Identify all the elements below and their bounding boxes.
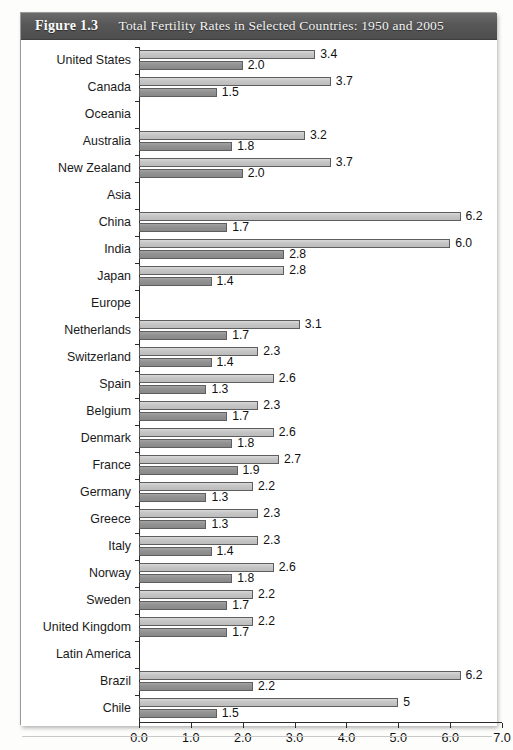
x-axis-tick <box>398 723 399 728</box>
category-label: Chile <box>21 702 139 714</box>
bar-value-label: 2.8 <box>289 248 306 260</box>
bar-value-label: 2.2 <box>258 480 275 492</box>
bar-value-label: 3.4 <box>320 48 337 60</box>
category-label: Europe <box>21 297 139 309</box>
bar-pair: 2.21.7 <box>139 614 497 641</box>
chart-data-row: Brazil6.22.2 <box>21 668 497 695</box>
category-label: Australia <box>21 135 139 147</box>
category-label: Asia <box>21 189 139 201</box>
bar-value-label: 1.8 <box>237 437 254 449</box>
bar-new <box>139 223 227 232</box>
category-label: Switzerland <box>21 351 139 363</box>
category-tick <box>135 290 139 291</box>
bar-pair <box>139 101 497 128</box>
category-label: Germany <box>21 486 139 498</box>
category-label: Italy <box>21 540 139 552</box>
bar-pair: 3.71.5 <box>139 74 497 101</box>
bar-old <box>139 509 258 518</box>
bar-old <box>139 320 300 329</box>
page-rule <box>22 736 492 737</box>
x-axis-tick-label: 7.0 <box>493 731 511 745</box>
category-tick <box>135 344 139 345</box>
category-label: United States <box>21 54 139 66</box>
category-label: France <box>21 459 139 471</box>
bar-new <box>139 547 212 556</box>
bar-new <box>139 88 217 97</box>
bar-value-label: 1.8 <box>237 140 254 152</box>
x-axis-tick-label: 3.0 <box>286 731 304 745</box>
chart-data-row: New Zealand3.72.0 <box>21 155 497 182</box>
category-tick <box>135 263 139 264</box>
bar-pair: 51.5 <box>139 695 497 722</box>
bar-value-label: 6.2 <box>466 210 483 222</box>
chart-data-row: Belgium2.31.7 <box>21 398 497 425</box>
bar-pair <box>139 182 497 209</box>
category-tick <box>135 317 139 318</box>
bar-new <box>139 250 284 259</box>
bar-value-label: 2.8 <box>289 264 306 276</box>
bar-pair: 2.21.7 <box>139 587 497 614</box>
x-axis-tick-label: 4.0 <box>338 731 356 745</box>
chart-data-row: Denmark2.61.8 <box>21 425 497 452</box>
category-tick <box>135 236 139 237</box>
category-tick <box>135 209 139 210</box>
category-label: Spain <box>21 378 139 390</box>
category-label: China <box>21 216 139 228</box>
category-label: Brazil <box>21 675 139 687</box>
bar-value-label: 3.7 <box>336 156 353 168</box>
bar-pair: 2.31.4 <box>139 344 497 371</box>
bar-old <box>139 158 331 167</box>
x-axis-tick <box>191 723 192 728</box>
bar-value-label: 1.8 <box>237 572 254 584</box>
bar-pair: 2.31.4 <box>139 533 497 560</box>
figure-page: Figure 1.3 Total Fertility Rates in Sele… <box>0 0 513 750</box>
x-axis-tick-label: 2.0 <box>234 731 252 745</box>
bar-value-label: 2.2 <box>258 680 275 692</box>
chart-data-row: India6.02.8 <box>21 236 497 263</box>
chart-data-row: Norway2.61.8 <box>21 560 497 587</box>
bar-value-label: 1.4 <box>217 356 234 368</box>
bar-value-label: 2.3 <box>263 399 280 411</box>
chart-group-row: Asia <box>21 182 497 209</box>
category-tick <box>135 74 139 75</box>
bar-pair: 2.61.8 <box>139 425 497 452</box>
bar-pair: 2.81.4 <box>139 263 497 290</box>
bar-old <box>139 698 398 707</box>
figure-card: Figure 1.3 Total Fertility Rates in Sele… <box>20 12 496 725</box>
bar-value-label: 2.3 <box>263 534 280 546</box>
bar-pair: 2.71.9 <box>139 452 497 479</box>
category-label: Sweden <box>21 594 139 606</box>
bar-value-label: 2.0 <box>248 59 265 71</box>
bar-new <box>139 709 217 718</box>
chart-data-row: Australia3.21.8 <box>21 128 497 155</box>
bar-value-label: 1.7 <box>232 410 249 422</box>
x-axis-tick <box>450 723 451 728</box>
bar-value-label: 1.7 <box>232 599 249 611</box>
x-axis-line <box>139 722 502 723</box>
bar-pair <box>139 641 497 668</box>
bar-value-label: 1.9 <box>243 464 260 476</box>
x-axis-tick-label: 0.0 <box>130 731 148 745</box>
bar-pair: 2.61.3 <box>139 371 497 398</box>
bar-pair: 2.21.3 <box>139 479 497 506</box>
chart-data-row: Germany2.21.3 <box>21 479 497 506</box>
bar-value-label: 2.6 <box>279 561 296 573</box>
bar-new <box>139 331 227 340</box>
bar-value-label: 2.2 <box>258 615 275 627</box>
figure-caption-bar: Figure 1.3 Total Fertility Rates in Sele… <box>21 13 497 40</box>
category-tick <box>135 560 139 561</box>
bar-value-label: 1.3 <box>211 383 228 395</box>
category-tick <box>135 479 139 480</box>
bar-old <box>139 212 461 221</box>
bar-pair <box>139 290 497 317</box>
bar-value-label: 3.2 <box>310 129 327 141</box>
chart-data-row: Netherlands3.11.7 <box>21 317 497 344</box>
bar-new <box>139 601 227 610</box>
bar-new <box>139 61 243 70</box>
chart-group-row: Europe <box>21 290 497 317</box>
x-axis-tick <box>139 723 140 728</box>
category-tick <box>135 47 139 48</box>
bar-value-label: 2.6 <box>279 426 296 438</box>
bar-value-label: 1.3 <box>211 518 228 530</box>
chart-data-row: Canada3.71.5 <box>21 74 497 101</box>
